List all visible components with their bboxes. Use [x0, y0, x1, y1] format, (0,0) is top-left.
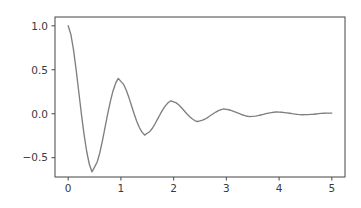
figure-canvas: 012345−0.50.00.51.0 [0, 0, 361, 208]
y-tick-label: 0.0 [31, 108, 48, 120]
x-tick-label: 4 [276, 182, 283, 194]
y-tick-label: −0.5 [23, 151, 49, 163]
x-tick-label: 1 [118, 182, 125, 194]
y-tick-label: 0.5 [31, 64, 48, 76]
x-tick-label: 5 [328, 182, 335, 194]
plot-area: 012345−0.50.00.51.0 [0, 0, 361, 208]
x-tick-label: 0 [65, 182, 72, 194]
y-tick-label: 1.0 [31, 20, 48, 32]
x-tick-label: 3 [223, 182, 230, 194]
axes-background [55, 17, 345, 177]
x-tick-label: 2 [170, 182, 177, 194]
